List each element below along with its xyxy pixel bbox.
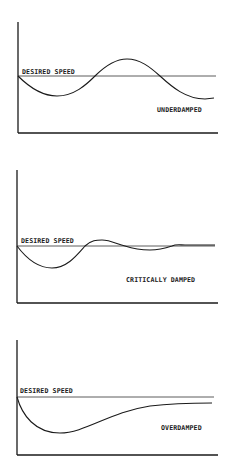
critically-damped-label: CRITICALLY DAMPED <box>126 276 195 284</box>
panel-overdamped: DESIRED SPEED OVERDAMPED <box>17 340 218 455</box>
desired-speed-label: DESIRED SPEED <box>22 68 75 76</box>
desired-speed-label: DESIRED SPEED <box>20 387 73 395</box>
damping-diagram: DESIRED SPEED UNDERDAMPED DESIRED SPEED … <box>0 0 227 470</box>
desired-speed-label: DESIRED SPEED <box>21 237 74 245</box>
underdamped-label: UNDERDAMPED <box>157 106 202 114</box>
panel-underdamped: DESIRED SPEED UNDERDAMPED <box>18 22 218 133</box>
panel-critically-damped: DESIRED SPEED CRITICALLY DAMPED <box>17 170 218 303</box>
underdamped-response-curve <box>18 59 214 99</box>
overdamped-label: OVERDAMPED <box>161 424 202 432</box>
